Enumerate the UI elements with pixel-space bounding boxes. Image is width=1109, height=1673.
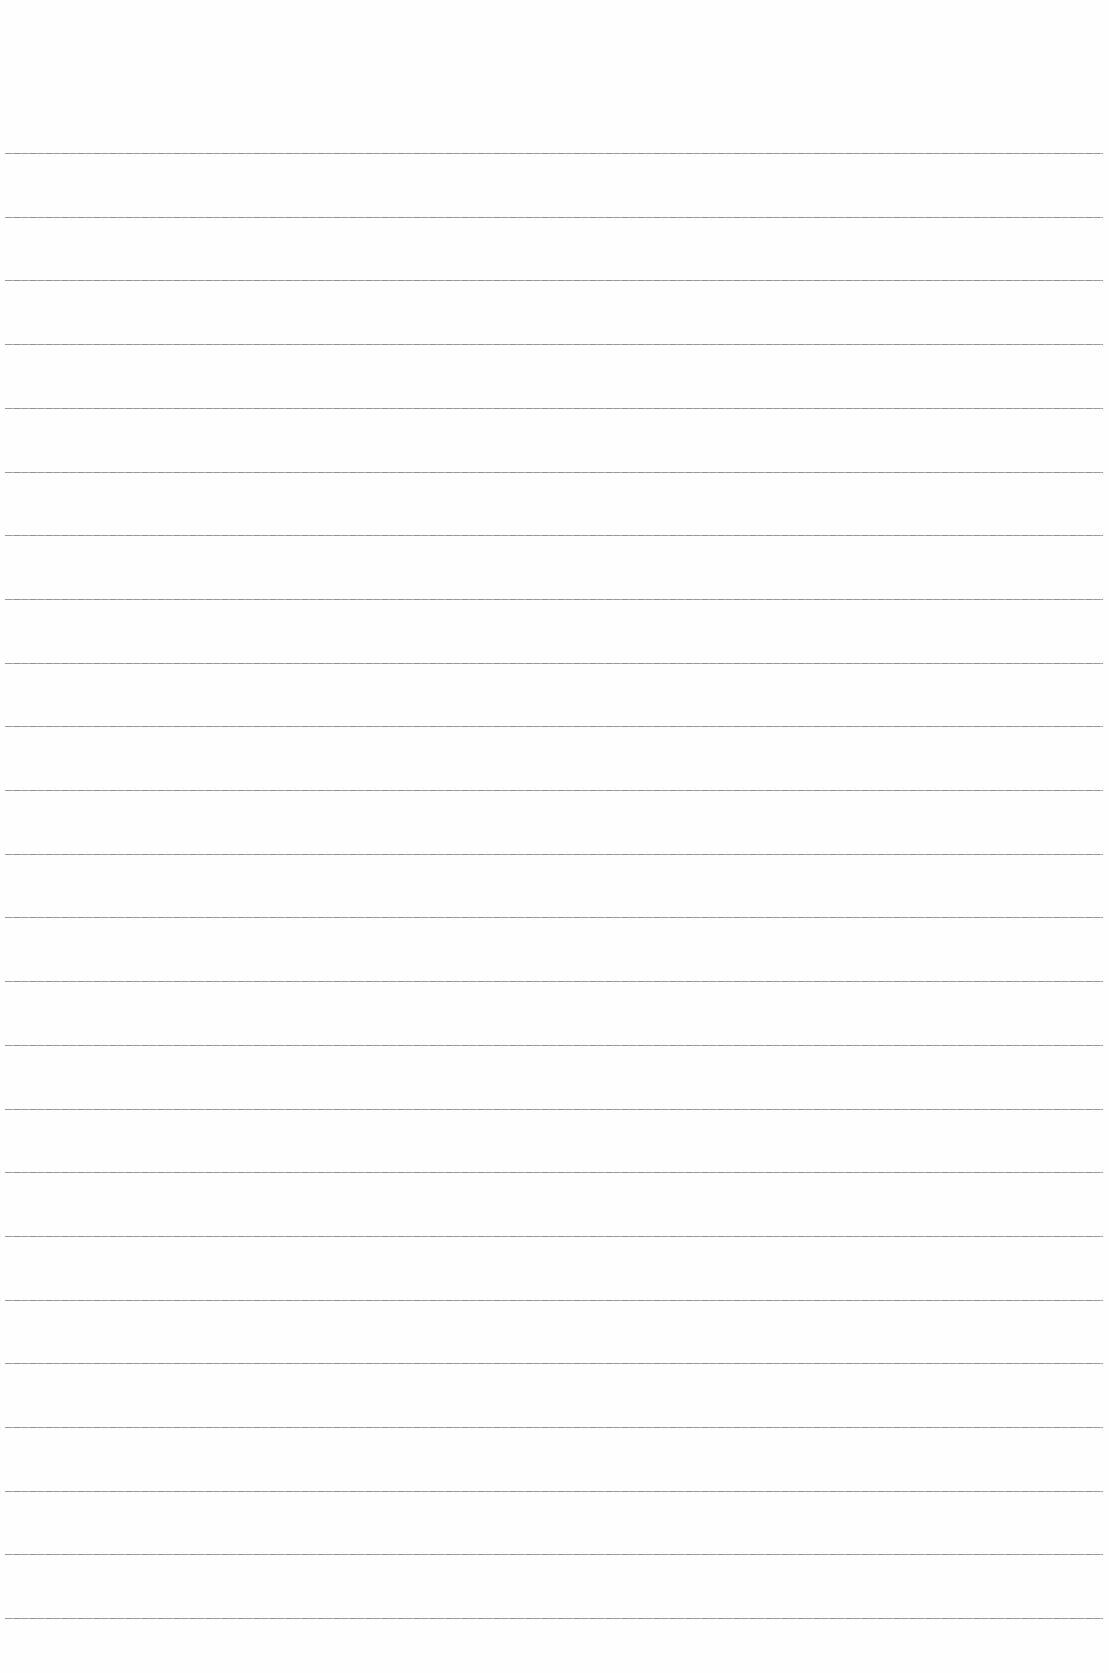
ruled-line xyxy=(5,1618,1103,1619)
ruled-paper-page xyxy=(0,0,1109,1673)
ruled-line xyxy=(5,1491,1103,1492)
ruled-line xyxy=(5,790,1103,791)
ruled-line xyxy=(5,217,1103,218)
ruled-line xyxy=(5,280,1103,281)
ruled-line xyxy=(5,726,1103,727)
ruled-line xyxy=(5,1236,1103,1237)
ruled-line xyxy=(5,1427,1103,1428)
ruled-line xyxy=(5,153,1103,154)
ruled-line xyxy=(5,1300,1103,1301)
ruled-line xyxy=(5,1172,1103,1173)
ruled-line xyxy=(5,1554,1103,1555)
ruled-line xyxy=(5,599,1103,600)
ruled-line xyxy=(5,663,1103,664)
ruled-line xyxy=(5,1045,1103,1046)
ruled-line xyxy=(5,408,1103,409)
ruled-line xyxy=(5,472,1103,473)
ruled-line xyxy=(5,981,1103,982)
ruled-line xyxy=(5,1363,1103,1364)
ruled-line xyxy=(5,1109,1103,1110)
ruled-line xyxy=(5,344,1103,345)
ruled-line xyxy=(5,854,1103,855)
ruled-line xyxy=(5,535,1103,536)
ruled-line xyxy=(5,917,1103,918)
